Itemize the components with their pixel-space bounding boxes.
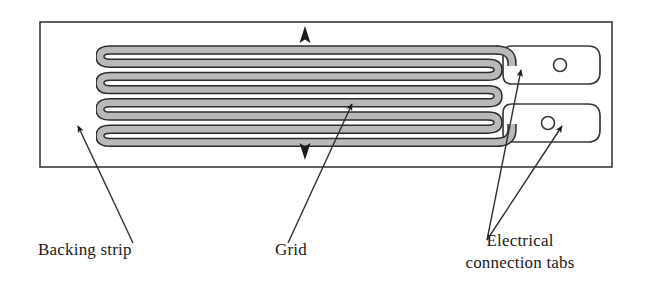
upper-tab-hole bbox=[554, 59, 567, 72]
label-tabs-line1: Electrical bbox=[420, 230, 620, 252]
label-backing-strip: Backing strip bbox=[38, 240, 132, 260]
lower-tab bbox=[503, 104, 600, 142]
upper-tab bbox=[503, 46, 600, 84]
strain-arrow-up bbox=[300, 26, 311, 43]
label-electrical-connection-tabs: Electrical connection tabs bbox=[420, 230, 620, 275]
label-tabs-line2: connection tabs bbox=[420, 252, 620, 274]
grid-serpentine bbox=[100, 50, 498, 142]
lower-tab-hole bbox=[542, 117, 555, 130]
label-grid: Grid bbox=[275, 240, 307, 260]
strain-gauge-figure: Backing strip Grid Electrical connection… bbox=[0, 0, 645, 307]
